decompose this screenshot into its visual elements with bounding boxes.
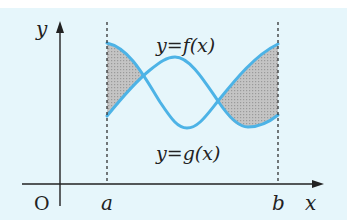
curve-g-label: y=g(x) (155, 142, 220, 164)
curve-f-label: y=f(x) (155, 34, 215, 56)
origin-label: O (34, 192, 50, 214)
area-between-curves-diagram: y x O a b y=f(x) y=g(x) (0, 0, 355, 220)
y-axis-arrow-icon (56, 21, 64, 33)
bound-label-b: b (272, 191, 285, 215)
x-axis-arrow-icon (312, 180, 324, 188)
x-axis-label: x (305, 191, 316, 215)
bound-label-a: a (101, 191, 113, 215)
y-axis-label: y (35, 17, 48, 41)
